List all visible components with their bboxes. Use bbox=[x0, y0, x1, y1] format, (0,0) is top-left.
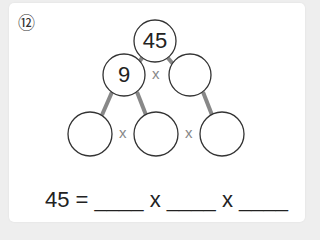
equation-lhs: 45 bbox=[45, 187, 69, 212]
connector bbox=[102, 92, 112, 115]
answer-blank-1[interactable]: ____ bbox=[95, 187, 144, 212]
answer-blank-3[interactable]: ____ bbox=[239, 187, 288, 212]
bottom-node-1 bbox=[68, 112, 112, 156]
times-sign: x bbox=[185, 124, 193, 141]
times-sign: x bbox=[152, 65, 160, 82]
times-sign: x bbox=[150, 187, 161, 212]
middle-left-value[interactable]: 9 bbox=[104, 62, 144, 88]
equation: 45 = ____ x ____ x ____ bbox=[45, 187, 288, 213]
connector bbox=[137, 92, 146, 115]
times-sign: x bbox=[119, 124, 127, 141]
equals-sign: = bbox=[76, 187, 89, 212]
times-sign: x bbox=[222, 187, 233, 212]
bottom-node-3 bbox=[200, 112, 244, 156]
connector bbox=[203, 92, 212, 115]
answer-blank-2[interactable]: ____ bbox=[167, 187, 216, 212]
root-value: 45 bbox=[135, 28, 175, 54]
middle-right-node bbox=[169, 54, 211, 96]
bottom-node-2 bbox=[134, 112, 178, 156]
